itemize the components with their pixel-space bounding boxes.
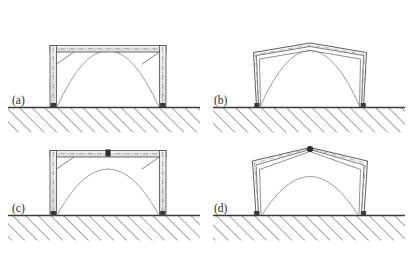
base-plate-right-c bbox=[160, 211, 165, 216]
panel-label-d: (d) bbox=[214, 202, 228, 215]
ground-hatch-c bbox=[8, 216, 200, 241]
base-plate-left-d bbox=[254, 211, 259, 216]
figure-canvas: (a) (b) bbox=[0, 0, 412, 253]
base-plate-right-d bbox=[361, 211, 366, 216]
ground-hatch-a bbox=[8, 108, 200, 133]
base-plate-right-a bbox=[160, 103, 165, 108]
apex-hinge-marker-d bbox=[307, 146, 313, 152]
ground-b bbox=[213, 108, 405, 133]
base-plate-right-b bbox=[361, 103, 366, 108]
ground-d bbox=[213, 216, 405, 241]
base-plate-left-a bbox=[51, 103, 56, 108]
panel-label-a: (a) bbox=[12, 94, 25, 107]
ground-c bbox=[8, 216, 200, 241]
panel-label-c: (c) bbox=[12, 202, 25, 215]
ground-hatch-b bbox=[213, 108, 405, 133]
ground-hatch-d bbox=[213, 216, 405, 241]
base-plate-left-c bbox=[51, 211, 56, 216]
collapse-mechanism-figure: (a) (b) bbox=[0, 0, 412, 253]
base-plate-left-b bbox=[254, 103, 259, 108]
ground-a bbox=[8, 108, 200, 133]
panel-label-b: (b) bbox=[214, 94, 228, 107]
apex-hinge-marker-c bbox=[106, 150, 111, 157]
